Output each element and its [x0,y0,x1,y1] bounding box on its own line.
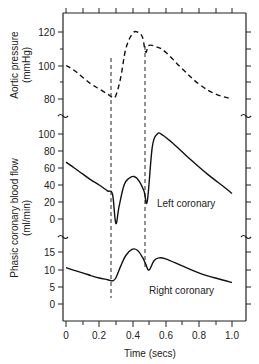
x-tick-labels: 0 0.2 0.4 0.6 0.8 1.0 [63,330,239,341]
y-label-flow-line2: (ml/min) [21,200,32,236]
ytick-left-20: 20 [44,197,56,208]
vertical-dashed-markers [111,46,145,298]
y-tick-labels-top: 120 100 80 [38,27,55,105]
ytick-left-80: 80 [44,146,56,157]
xtick-0.6: 0.6 [159,330,173,341]
left-y-ticks [58,32,63,304]
y-axis-label-flow: Phasic coronary blood flow (ml/min) [9,157,32,277]
y-tick-labels-mid: 100 80 60 40 20 0 [38,129,55,225]
xtick-0.2: 0.2 [92,330,106,341]
coronary-flow-chart: 120 100 80 100 80 60 40 20 0 15 10 5 0 0… [0,0,259,364]
y-label-flow-line1: Phasic coronary blood flow [9,157,20,277]
top-x-ticks [66,8,232,13]
ytick-right-15: 15 [44,247,56,258]
right-coronary-curve [66,249,232,283]
bottom-x-ticks [66,321,232,327]
ytick-120: 120 [38,27,55,38]
ytick-left-100: 100 [38,129,55,140]
aortic-pressure-curve [66,31,232,99]
right-y-ticks [246,32,251,304]
ytick-right-5: 5 [49,282,55,293]
y-label-aortic-line1: Aortic pressure [9,31,20,99]
ytick-right-0: 0 [49,299,55,310]
xtick-1.0: 1.0 [225,330,239,341]
y-axis-label-aortic: Aortic pressure (mmHg) [9,31,32,99]
y-label-aortic-line2: (mmHg) [21,47,32,83]
xtick-0: 0 [63,330,69,341]
xtick-0.8: 0.8 [192,330,206,341]
right-coronary-annotation: Right coronary [149,285,214,296]
left-coronary-annotation: Left coronary [157,198,215,209]
xtick-0.4: 0.4 [126,330,140,341]
left-coronary-curve [66,133,232,224]
ytick-left-40: 40 [44,180,56,191]
ytick-100: 100 [38,61,55,72]
ytick-left-60: 60 [44,163,56,174]
ytick-left-0: 0 [49,214,55,225]
ytick-right-10: 10 [44,265,56,276]
x-axis-label: Time (secs) [124,348,176,359]
y-tick-labels-bot: 15 10 5 0 [44,247,56,310]
ytick-80: 80 [44,94,56,105]
